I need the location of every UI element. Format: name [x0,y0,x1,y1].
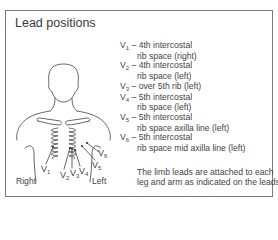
label-right-side: Right [16,176,36,186]
v4-leader [75,150,80,166]
electrode-label-v4: V4 [79,166,88,176]
head-outline [49,64,79,102]
neck-right [72,98,77,111]
ribs-right [51,128,58,159]
clavicle-left-side [66,118,91,125]
v2-leader [64,148,70,169]
v1-leader [46,147,53,164]
electrode-v6 [86,142,88,144]
clavicle-right-side [37,118,62,125]
electrode-v1 [52,146,54,148]
electrode-label-v3: V3 [70,168,79,178]
note-line-2: leg and arm as indicated on the leads [137,177,273,187]
electrode-label-v2: V2 [60,170,69,180]
electrode-label-v1: V1 [41,164,50,174]
electrode-v3 [71,148,73,150]
lead-v6-detail: rib space mid axilla line (left) [120,144,245,154]
lead-positions-list: V1 – 4th intercostal rib space (right) V… [120,41,245,154]
shoulder-right [77,111,110,140]
electrode-v2 [69,147,71,149]
electrode-label-v6: V6 [98,148,107,158]
label-left-side: Left [92,176,106,186]
electrode-label-v5: V5 [92,160,101,170]
electrode-v5 [81,145,83,147]
shoulder-left [17,111,50,140]
limb-leads-note: The limb leads are attached to each leg … [137,167,273,187]
electrode-v4 [74,149,76,151]
note-line-1: The limb leads are attached to each [137,167,273,177]
neck-left [50,98,55,111]
